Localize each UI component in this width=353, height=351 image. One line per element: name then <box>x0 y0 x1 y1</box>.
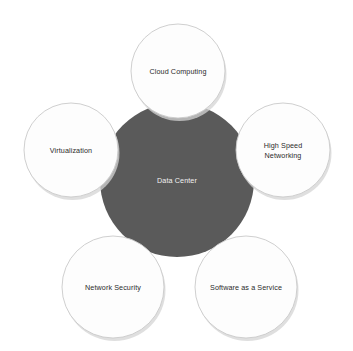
node-label-network-security: Network Security <box>85 283 141 292</box>
node-label-cloud-computing: Cloud Computing <box>149 67 206 76</box>
node-label-software-as-a-service: Software as a Service <box>210 283 282 292</box>
diagram-canvas: Data Center Cloud Computing High SpeedNe… <box>0 0 353 351</box>
node-label-virtualization: Virtualization <box>50 146 92 155</box>
hub-label: Data Center <box>157 176 197 185</box>
node-label-high-speed-networking: High SpeedNetworking <box>264 141 303 160</box>
hub-and-spoke-diagram: Data Center Cloud Computing High SpeedNe… <box>0 0 353 351</box>
